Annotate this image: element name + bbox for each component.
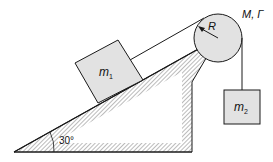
diagram-canvas: [0, 0, 273, 162]
physics-diagram: m1 m2 R M, Γ 30°: [0, 0, 273, 162]
label-m2-main: m: [234, 100, 244, 114]
label-m2-sub: 2: [244, 108, 248, 115]
label-m1-main: m: [99, 65, 109, 79]
label-m1: m1: [99, 66, 113, 78]
label-radius: R: [208, 21, 216, 32]
label-m1-sub: 1: [109, 73, 113, 80]
label-m2: m2: [234, 101, 248, 113]
label-angle: 30°: [59, 136, 74, 146]
label-pulley-props: M, Γ: [242, 9, 264, 20]
